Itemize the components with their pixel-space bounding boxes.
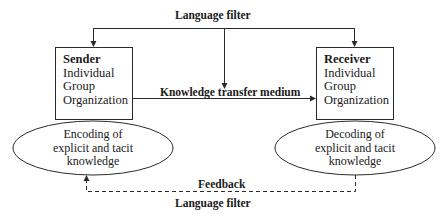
encoding-line-1: Encoding of [18,128,168,142]
sender-level-group: Group [63,80,128,94]
decoding-text: Decoding of explicit and tacit knowledge [280,128,430,169]
bottom-language-filter-label: Language filter [175,197,251,210]
knowledge-transfer-medium-label: Knowledge transfer medium [160,86,300,99]
encoding-line-3: knowledge [18,155,168,169]
arrowhead-into-receiver [352,41,358,47]
sender-entity: Sender Individual Group Organization [63,53,128,107]
top-language-filter-label: Language filter [175,9,251,22]
encoding-line-2: explicit and tacit [18,142,168,156]
sender-level-individual: Individual [63,67,128,81]
decoding-line-3: knowledge [280,155,430,169]
encoding-text: Encoding of explicit and tacit knowledge [18,128,168,169]
receiver-title: Receiver [324,53,389,67]
arrowhead-into-sender [91,41,97,47]
receiver-level-group: Group [324,80,389,94]
feedback-label: Feedback [198,178,245,191]
receiver-level-individual: Individual [324,67,389,81]
receiver-level-organization: Organization [324,94,389,108]
sender-level-organization: Organization [63,94,128,108]
medium-arrowhead [310,96,316,102]
decoding-line-1: Decoding of [280,128,430,142]
sender-title: Sender [63,53,128,67]
receiver-entity: Receiver Individual Group Organization [324,53,389,107]
feedback-arrowhead [84,175,90,181]
decoding-line-2: explicit and tacit [280,142,430,156]
